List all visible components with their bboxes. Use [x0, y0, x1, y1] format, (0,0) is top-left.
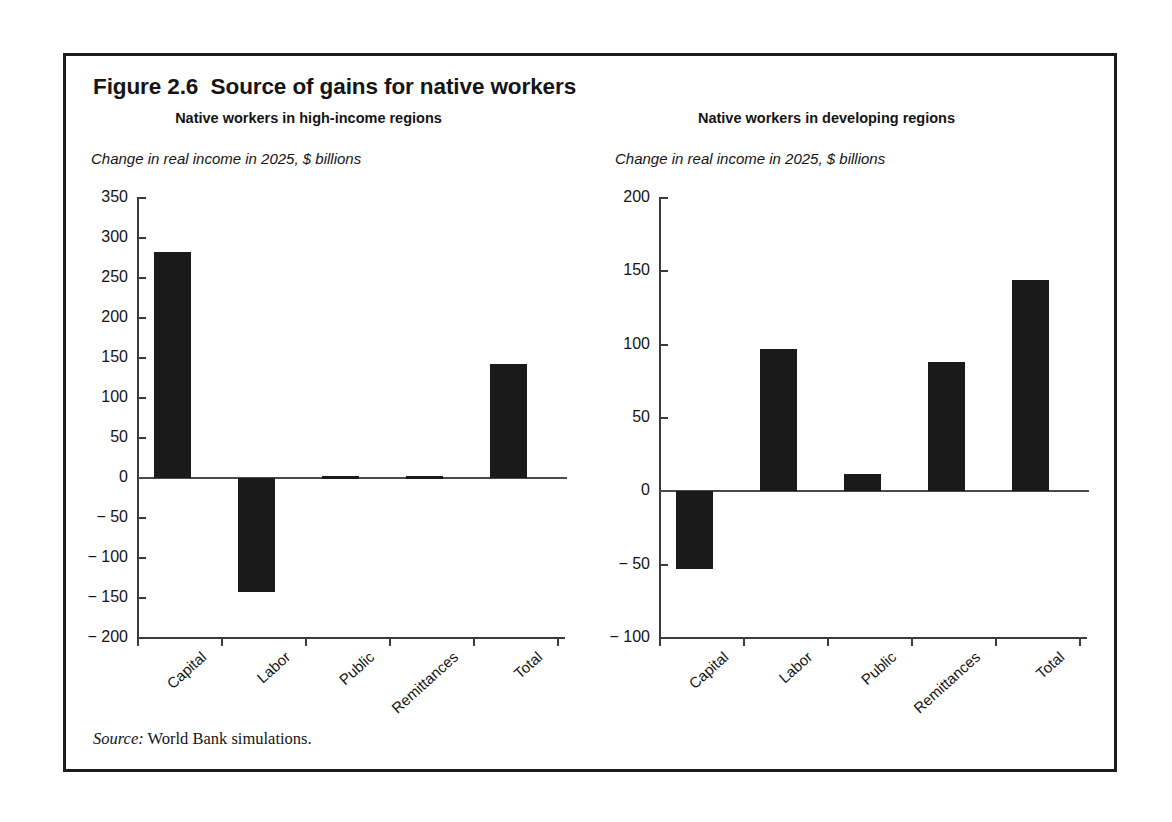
x-tick-mark-left-2 [305, 637, 307, 646]
bar-right-capital [676, 491, 713, 569]
x-axis-label-left-public: Public [336, 648, 378, 688]
y-tick-mark [659, 270, 668, 272]
page-title: Figure 2.6 Source of gains for native wo… [93, 74, 576, 100]
y-tick-mark [137, 397, 146, 399]
y-tick-mark [659, 564, 668, 566]
plot-area-right: 200150100500− 50− 100CapitalLaborPublicR… [659, 198, 1089, 638]
x-axis-label-left-total: Total [511, 648, 546, 682]
x-tick-mark-left-5 [557, 637, 559, 646]
x-axis-label-left-labor: Labor [254, 648, 294, 686]
x-axis-label-right-public: Public [858, 648, 900, 688]
y-tick-label: 0 [119, 468, 128, 486]
plot-area-left: 350300250200150100500− 50− 100− 150− 200… [137, 198, 567, 638]
source-note: Source: World Bank simulations. [93, 729, 312, 749]
x-axis-label-right-remittances: Remittances [910, 648, 983, 716]
x-axis-line-left [137, 637, 565, 639]
x-tick-mark-left-4 [473, 637, 475, 646]
y-tick-label: − 50 [618, 555, 650, 573]
y-tick-label: − 50 [96, 508, 128, 526]
y-tick-label: 200 [623, 188, 650, 206]
y-tick-label: 100 [101, 388, 128, 406]
y-tick-label: 150 [101, 348, 128, 366]
x-tick-mark-right-0 [659, 637, 661, 646]
x-tick-mark-left-3 [389, 637, 391, 646]
y-tick-mark [137, 197, 146, 199]
y-tick-mark [137, 557, 146, 559]
y-tick-label: 50 [632, 408, 650, 426]
x-axis-label-right-labor: Labor [776, 648, 816, 686]
x-tick-mark-right-5 [1079, 637, 1081, 646]
bar-right-public [844, 474, 881, 492]
bar-left-remittances [406, 476, 443, 479]
chart-title-right: Native workers in developing regions [593, 110, 1120, 126]
y-tick-mark [137, 437, 146, 439]
x-axis-label-right-total: Total [1033, 648, 1068, 682]
y-tick-mark [137, 237, 146, 239]
x-tick-mark-right-2 [827, 637, 829, 646]
charts-container: Native workers in high-income regions Ch… [66, 110, 1114, 720]
y-tick-label: 350 [101, 188, 128, 206]
x-axis-label-left-remittances: Remittances [388, 648, 461, 716]
y-tick-label: 50 [110, 428, 128, 446]
source-label: Source: [93, 729, 144, 748]
y-axis-caption-right: Change in real income in 2025, $ billion… [615, 150, 885, 167]
y-tick-label: 0 [641, 481, 650, 499]
y-tick-mark [137, 597, 146, 599]
chart-panel-high-income: Native workers in high-income regions Ch… [66, 110, 593, 720]
y-tick-label: 100 [623, 335, 650, 353]
x-tick-mark-right-1 [743, 637, 745, 646]
x-tick-mark-left-1 [221, 637, 223, 646]
x-tick-mark-left-0 [137, 637, 139, 646]
chart-panel-developing: Native workers in developing regions Cha… [593, 110, 1120, 720]
y-tick-label: 200 [101, 308, 128, 326]
y-tick-label: 250 [101, 268, 128, 286]
bar-left-total [490, 364, 527, 478]
bar-right-remittances [928, 362, 965, 491]
bar-left-labor [238, 478, 275, 592]
x-axis-label-right-capital: Capital [686, 648, 732, 692]
y-axis-line-left [137, 198, 139, 638]
y-tick-mark [137, 357, 146, 359]
y-tick-mark [659, 344, 668, 346]
bar-left-capital [154, 252, 191, 478]
bar-right-labor [760, 349, 797, 491]
y-tick-mark [659, 197, 668, 199]
figure-frame: Figure 2.6 Source of gains for native wo… [63, 53, 1117, 772]
y-tick-label: 300 [101, 228, 128, 246]
y-tick-label: − 100 [610, 628, 650, 646]
x-axis-line-right [659, 637, 1087, 639]
y-tick-label: − 150 [88, 588, 128, 606]
y-tick-mark [137, 517, 146, 519]
source-value: World Bank simulations. [144, 729, 312, 748]
y-tick-label: − 200 [88, 628, 128, 646]
x-axis-label-left-capital: Capital [164, 648, 210, 692]
chart-title-left: Native workers in high-income regions [66, 110, 593, 126]
bar-right-total [1012, 280, 1049, 491]
bar-left-public [322, 476, 359, 479]
y-tick-label: 150 [623, 261, 650, 279]
y-tick-mark [137, 277, 146, 279]
y-tick-mark [659, 417, 668, 419]
y-tick-mark [137, 317, 146, 319]
y-tick-label: − 100 [88, 548, 128, 566]
x-tick-mark-right-3 [911, 637, 913, 646]
x-tick-mark-right-4 [995, 637, 997, 646]
y-axis-caption-left: Change in real income in 2025, $ billion… [91, 150, 361, 167]
